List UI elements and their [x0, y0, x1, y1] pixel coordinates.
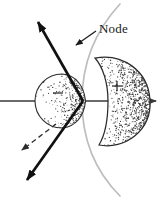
orbital-node-figure: Node	[0, 0, 168, 199]
negative-lobe	[32, 70, 89, 133]
node-label: Node	[99, 21, 128, 37]
figure-canvas	[0, 0, 168, 199]
node-pointer-arrow	[76, 31, 96, 45]
